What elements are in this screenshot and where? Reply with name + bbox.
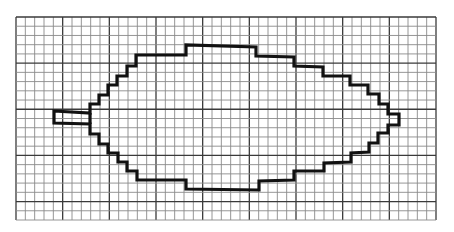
grid-paper bbox=[0, 0, 454, 232]
grid-diagram bbox=[0, 0, 454, 232]
leaf-outline bbox=[54, 45, 399, 190]
